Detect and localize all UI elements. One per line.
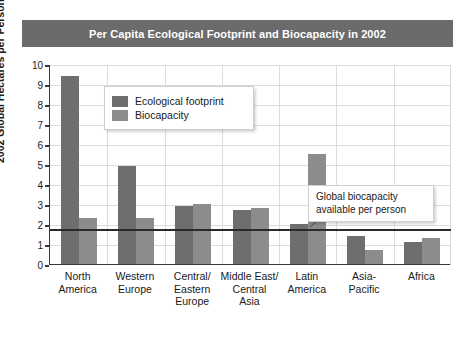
y-tick-label-4: 4 bbox=[24, 180, 43, 191]
legend-item-ecological-footprint: Ecological footprint bbox=[112, 95, 245, 107]
gridline-x-4 bbox=[279, 65, 280, 264]
y-tick-label-7: 7 bbox=[24, 120, 43, 131]
x-tick-label-6: Africa bbox=[387, 270, 456, 283]
bar-biocapacity-2 bbox=[193, 204, 211, 264]
y-tick-label-2: 2 bbox=[24, 220, 43, 231]
bar-biocapacity-6 bbox=[422, 238, 440, 264]
y-tick-label-9: 9 bbox=[24, 80, 43, 91]
bar-footprint-6 bbox=[404, 242, 422, 264]
gridline-x-5 bbox=[336, 65, 337, 264]
gridline-y-5 bbox=[50, 165, 450, 166]
page-title: Per Capita Ecological Footprint and Bioc… bbox=[89, 28, 386, 40]
legend-item-biocapacity: Biocapacity bbox=[112, 109, 245, 121]
bar-footprint-2 bbox=[175, 206, 193, 264]
y-tick-label-1: 1 bbox=[24, 240, 43, 251]
bar-footprint-1 bbox=[118, 166, 136, 264]
plot-right-edge bbox=[450, 65, 451, 265]
y-tick-label-10: 10 bbox=[24, 60, 43, 71]
bar-biocapacity-3 bbox=[251, 208, 269, 264]
legend-label-ecological-footprint: Ecological footprint bbox=[135, 95, 224, 107]
bar-biocapacity-5 bbox=[365, 250, 383, 264]
y-axis-title: 2002 Global Hectares per Person bbox=[0, 0, 6, 163]
gridline-y-6 bbox=[50, 145, 450, 146]
chart-legend: Ecological footprint Biocapacity bbox=[104, 86, 254, 130]
legend-label-biocapacity: Biocapacity bbox=[135, 109, 189, 121]
gridline-x-6 bbox=[394, 65, 395, 264]
y-tick-label-3: 3 bbox=[24, 200, 43, 211]
chart-figure: Per Capita Ecological Footprint and Bioc… bbox=[0, 0, 475, 346]
bar-biocapacity-0 bbox=[79, 218, 97, 264]
y-tick-label-0: 0 bbox=[24, 260, 43, 271]
bar-footprint-0 bbox=[61, 76, 79, 264]
gridline-y-10 bbox=[50, 65, 450, 66]
chart-title-bar: Per Capita Ecological Footprint and Bioc… bbox=[22, 20, 453, 47]
annotation-global-biocapacity: Global biocapacity available per person bbox=[308, 185, 434, 222]
legend-swatch-biocapacity bbox=[112, 110, 128, 121]
bar-footprint-3 bbox=[233, 210, 251, 264]
legend-swatch-ecological-footprint bbox=[112, 96, 128, 107]
bar-biocapacity-1 bbox=[136, 218, 154, 264]
y-tick-label-8: 8 bbox=[24, 100, 43, 111]
y-tick-label-5: 5 bbox=[24, 160, 43, 171]
reference-line-global-biocapacity bbox=[50, 229, 451, 231]
y-tick-mark-0 bbox=[45, 265, 49, 267]
y-tick-label-6: 6 bbox=[24, 140, 43, 151]
bar-footprint-5 bbox=[347, 236, 365, 264]
